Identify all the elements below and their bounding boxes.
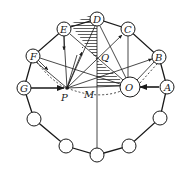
node-B: B: [152, 50, 166, 64]
node-unlabeled-3: [90, 148, 104, 162]
node-D: D: [90, 12, 104, 26]
node-unlabeled-1: [27, 112, 41, 126]
node-O: O: [120, 77, 140, 97]
line-F-to-P: [36, 62, 67, 88]
node-E: E: [57, 22, 71, 36]
line-O-to-B-dashed: [140, 64, 157, 83]
line-O-to-B: [137, 62, 154, 80]
label-Q: Q: [101, 52, 109, 63]
node-unlabeled-2: [59, 139, 73, 153]
svg-text:F: F: [29, 51, 38, 62]
label-P: P: [60, 92, 68, 103]
node-C: C: [121, 22, 135, 36]
svg-text:A: A: [163, 82, 171, 93]
node-A: A: [160, 80, 174, 94]
ray-P-to-O: [67, 86, 120, 88]
svg-text:C: C: [124, 24, 132, 35]
svg-text:E: E: [59, 24, 68, 35]
geometry-diagram: A B C D E F G O P M Q: [0, 0, 189, 173]
svg-text:D: D: [92, 14, 101, 25]
svg-text:O: O: [125, 82, 133, 93]
label-M: M: [83, 89, 95, 100]
ray-P-to-Q: [67, 52, 82, 88]
line-O-to-E-arrow: [82, 47, 83, 48]
svg-text:B: B: [154, 52, 162, 63]
node-unlabeled-5: [153, 111, 167, 125]
ray-P-up: [64, 36, 67, 88]
node-F: F: [26, 49, 40, 63]
node-unlabeled-4: [122, 139, 136, 153]
svg-text:G: G: [20, 83, 28, 94]
hatched-region-lower: [97, 60, 121, 86]
point-P: [65, 86, 69, 90]
node-G: G: [17, 81, 31, 95]
